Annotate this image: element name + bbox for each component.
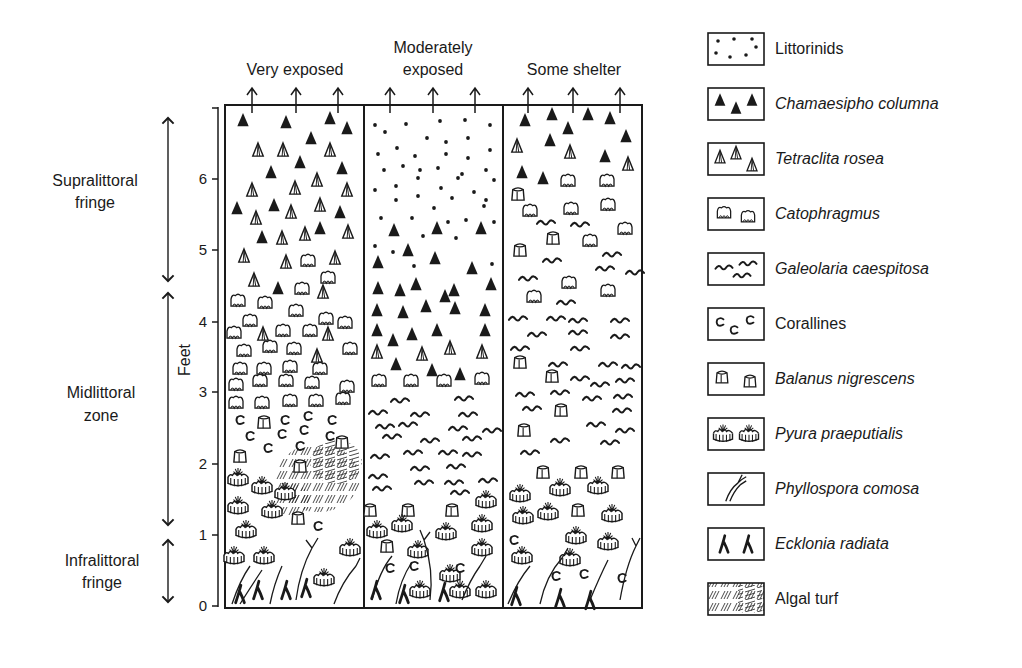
littorinid-icon bbox=[394, 184, 398, 188]
galeolaria-icon bbox=[611, 334, 629, 338]
catophragmus-icon bbox=[309, 394, 323, 406]
balanus-icon bbox=[518, 424, 530, 436]
balanus-icon bbox=[364, 504, 376, 516]
balanus-icon bbox=[234, 450, 246, 462]
littorinid-icon bbox=[492, 220, 496, 224]
chamaesipho-icon bbox=[429, 251, 440, 264]
littorinid-icon bbox=[421, 234, 425, 238]
galeolaria-icon bbox=[587, 422, 605, 426]
littorinid-icon bbox=[466, 156, 470, 160]
littorinid-icon bbox=[714, 51, 718, 55]
galeolaria-icon bbox=[547, 316, 565, 320]
legend-item-galeolaria: Galeolaria caespitosa bbox=[708, 253, 929, 285]
chamaesipho-icon bbox=[516, 165, 527, 178]
galeolaria-icon bbox=[483, 428, 501, 432]
littorinid-icon bbox=[484, 168, 488, 172]
pyura-icon bbox=[228, 468, 248, 486]
ecklonia-icon bbox=[254, 581, 263, 599]
header-some-shelter: Some shelter bbox=[527, 61, 622, 78]
chamaesipho-icon bbox=[449, 301, 460, 314]
legend-swatch bbox=[708, 198, 764, 230]
galeolaria-icon bbox=[613, 408, 631, 412]
coralline-icon bbox=[301, 426, 308, 434]
legend-item-tetraclita: Tetraclita rosea bbox=[708, 143, 884, 175]
chamaesipho-icon bbox=[485, 277, 496, 290]
chamaesipho-icon bbox=[406, 327, 417, 340]
tetraclita-icon bbox=[247, 183, 258, 196]
galeolaria-icon bbox=[509, 316, 527, 320]
catophragmus-icon bbox=[233, 362, 247, 374]
coralline-icon bbox=[511, 536, 518, 544]
catophragmus-icon bbox=[227, 326, 241, 338]
pyura-icon bbox=[472, 514, 492, 532]
legend-item-littorinid: Littorinids bbox=[708, 33, 843, 65]
galeolaria-icon bbox=[411, 466, 429, 470]
catophragmus-icon bbox=[404, 374, 418, 386]
legend-item-coralline: Corallines bbox=[708, 308, 846, 340]
galeolaria-icon bbox=[459, 412, 477, 416]
tetraclita-icon bbox=[277, 231, 288, 244]
galeolaria-icon bbox=[611, 318, 629, 322]
chamaesipho-icon bbox=[268, 198, 279, 211]
galeolaria-icon bbox=[373, 486, 391, 490]
tetraclita-icon bbox=[251, 211, 262, 224]
chamaesipho-icon bbox=[341, 121, 352, 134]
littorinid-icon bbox=[401, 164, 405, 168]
tetraclita-icon bbox=[445, 341, 456, 354]
catophragmus-icon bbox=[601, 284, 615, 296]
pyura-icon bbox=[224, 546, 244, 564]
chamaesipho-icon bbox=[305, 131, 316, 144]
littorinid-icon bbox=[413, 154, 417, 158]
galeolaria-icon bbox=[614, 394, 632, 398]
pyura-icon bbox=[314, 568, 334, 586]
balanus-icon bbox=[537, 466, 549, 478]
catophragmus-icon bbox=[276, 324, 290, 336]
littorinid-icon bbox=[376, 152, 380, 156]
legend-label: Ecklonia radiata bbox=[775, 535, 889, 552]
balanus-icon bbox=[572, 504, 584, 516]
legend-label: Galeolaria caespitosa bbox=[775, 260, 929, 277]
tetraclita-icon bbox=[239, 249, 250, 262]
littorinid-icon bbox=[488, 123, 492, 127]
chamaesipho-icon bbox=[544, 133, 555, 146]
pyura-icon bbox=[236, 520, 256, 538]
catophragmus-icon bbox=[618, 222, 632, 234]
pyura-icon bbox=[602, 504, 622, 522]
chamaesipho-icon bbox=[280, 115, 291, 128]
chamaesipho-icon bbox=[390, 357, 401, 370]
tetraclita-icon bbox=[477, 345, 488, 358]
catophragmus-icon bbox=[287, 342, 301, 354]
chamaesipho-icon bbox=[479, 303, 490, 316]
chamaesipho-icon bbox=[537, 171, 548, 184]
chamaesipho-icon bbox=[604, 111, 615, 124]
header-moderately-exposed-line2: exposed bbox=[403, 61, 464, 78]
littorinid-icon bbox=[463, 118, 467, 122]
header-moderately-exposed-line1: Moderately bbox=[393, 39, 472, 56]
tetraclita-icon bbox=[253, 143, 264, 156]
littorinid-icon bbox=[732, 37, 736, 41]
arrow-up-icon bbox=[333, 88, 343, 113]
ecklonia-icon bbox=[512, 587, 521, 605]
galeolaria-icon bbox=[519, 276, 537, 280]
chamaesipho-icon bbox=[620, 129, 631, 142]
catophragmus-icon bbox=[301, 254, 315, 266]
ecklonia-icon bbox=[400, 585, 409, 603]
chamaesipho-icon bbox=[479, 323, 490, 336]
chamaesipho-icon bbox=[475, 221, 486, 234]
chamaesipho-icon bbox=[388, 223, 399, 236]
catophragmus-icon bbox=[295, 282, 309, 294]
chamaesipho-icon bbox=[426, 363, 437, 376]
ecklonia-icon bbox=[556, 589, 565, 607]
arrow-up-icon bbox=[428, 88, 438, 113]
littorinid-icon bbox=[383, 130, 387, 134]
legend-label: Littorinids bbox=[775, 40, 843, 57]
catophragmus-icon bbox=[305, 376, 319, 388]
legend-swatch bbox=[708, 528, 764, 560]
pyura-icon bbox=[513, 506, 533, 524]
chamaesipho-icon bbox=[371, 303, 382, 316]
chamaesipho-icon bbox=[466, 261, 477, 274]
catophragmus-icon bbox=[523, 204, 537, 216]
littorinid-icon bbox=[456, 176, 460, 180]
galeolaria-icon bbox=[421, 438, 439, 442]
littorinid-icon bbox=[395, 146, 399, 150]
